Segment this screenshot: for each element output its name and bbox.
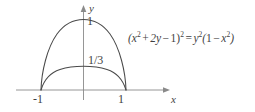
- implicit-curve-figure: y x 1 1/3 -1 1 (x2+2y−1)2=y2(1−x2): [0, 0, 255, 112]
- y-tick-label-one-third: 1/3: [88, 54, 103, 66]
- curve-equation-annotation: (x2+2y−1)2=y2(1−x2): [128, 33, 234, 45]
- y-axis-label: y: [89, 3, 94, 14]
- x-tick-label-one: 1: [118, 93, 124, 105]
- x-tick-label-negative-one: -1: [33, 93, 43, 105]
- y-tick-label-one: 1: [87, 15, 93, 27]
- x-axis-label: x: [171, 94, 176, 105]
